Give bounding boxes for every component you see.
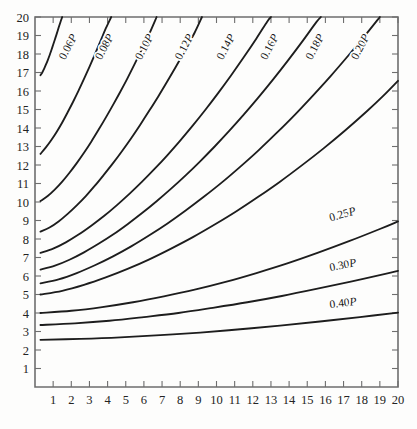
- y-axis-tick-label: 2: [23, 344, 29, 358]
- contour-curve: [40, 313, 398, 340]
- x-axis-tick-label: 11: [229, 393, 241, 407]
- contour-label: 0.40P: [329, 295, 357, 310]
- y-axis-tick-label: 1: [23, 362, 29, 376]
- x-axis-tick-label: 18: [355, 393, 368, 407]
- y-axis-tick-label: 3: [23, 325, 29, 339]
- y-axis-tick-label: 13: [17, 140, 30, 154]
- contour-chart: 1234567891011121314151617181920123456789…: [0, 0, 417, 429]
- x-axis-tick-label: 16: [319, 393, 332, 407]
- contour-label: 0.25P: [328, 204, 357, 223]
- y-axis-tick-label: 16: [17, 85, 30, 99]
- contour-label: 0.16P: [258, 32, 281, 62]
- x-axis-tick-label: 1: [50, 393, 56, 407]
- contour-curves: [40, 17, 398, 340]
- x-axis-tick-label: 10: [210, 393, 223, 407]
- x-axis-tick-label: 19: [374, 393, 387, 407]
- contour-label-text: 0.14P: [214, 32, 237, 62]
- x-axis-tick-label: 9: [195, 393, 201, 407]
- contour-label: 0.06P: [56, 32, 79, 62]
- contour-labels: 0.06P0.08P0.10P0.12P0.14P0.16P0.18P0.20P…: [56, 32, 372, 310]
- chart-page: 1234567891011121314151617181920123456789…: [0, 0, 417, 429]
- contour-label: 0.20P: [348, 32, 371, 62]
- contour-label-text: 0.08P: [92, 32, 115, 62]
- y-axis-tick-label: 15: [17, 103, 30, 117]
- contour-label-text: 0.20P: [348, 32, 371, 62]
- contour-label-text: 0.16P: [258, 32, 281, 62]
- x-axis-tick-label: 2: [68, 393, 74, 407]
- x-axis-tick-label: 15: [301, 393, 314, 407]
- contour-label-text: 0.30P: [328, 256, 357, 273]
- y-axis-tick-label: 18: [17, 48, 30, 62]
- contour-label-text: 0.10P: [132, 32, 155, 62]
- contour-label: 0.08P: [92, 32, 115, 62]
- contour-curve: [40, 17, 62, 75]
- x-axis-tick-label: 5: [123, 393, 129, 407]
- contour-label-text: 0.12P: [172, 32, 195, 62]
- contour-label: 0.10P: [132, 32, 155, 62]
- y-axis-tick-label: 10: [17, 196, 30, 210]
- y-axis-tick-label: 5: [23, 288, 29, 302]
- contour-label-text: 0.40P: [329, 295, 357, 310]
- x-axis-tick-label: 20: [392, 393, 405, 407]
- x-axis-tick-label: 12: [247, 393, 260, 407]
- contour-label: 0.12P: [172, 32, 195, 62]
- y-axis-tick-label: 14: [17, 122, 30, 136]
- contour-curve: [40, 17, 271, 253]
- y-axis-tick-label: 11: [17, 177, 29, 191]
- y-axis-tick-label: 12: [17, 159, 30, 173]
- x-axis-tick-label: 6: [141, 393, 147, 407]
- x-axis-tick-label: 14: [283, 393, 296, 407]
- y-axis-tick-label: 9: [23, 214, 29, 228]
- contour-label-text: 0.06P: [56, 32, 79, 62]
- y-axis-tick-label: 17: [17, 66, 30, 80]
- contour-label: 0.30P: [328, 256, 357, 273]
- x-axis-tick-label: 17: [337, 393, 350, 407]
- x-axis-tick-label: 4: [104, 393, 111, 407]
- y-axis-tick-label: 8: [23, 233, 29, 247]
- y-axis-tick-label: 4: [23, 307, 30, 321]
- contour-label: 0.14P: [214, 32, 237, 62]
- x-axis-tick-label: 13: [265, 393, 278, 407]
- y-axis-tick-label: 6: [23, 270, 29, 284]
- contour-label-text: 0.25P: [328, 204, 357, 223]
- x-axis-tick-label: 8: [177, 393, 183, 407]
- y-axis-tick-label: 20: [17, 11, 30, 25]
- x-axis-tick-label: 7: [159, 393, 165, 407]
- y-axis-tick-label: 19: [17, 29, 30, 43]
- x-axis-tick-label: 3: [86, 393, 92, 407]
- y-axis-tick-label: 7: [23, 251, 29, 265]
